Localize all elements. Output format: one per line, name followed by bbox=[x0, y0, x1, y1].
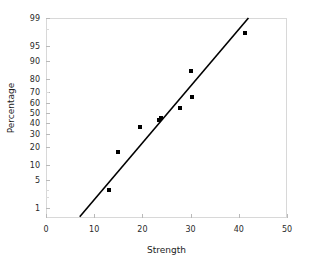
x-tick-label: 10 bbox=[89, 225, 99, 234]
y-tick-mark bbox=[46, 180, 50, 181]
y-tick-label: 5 bbox=[14, 176, 40, 185]
y-tick-mark bbox=[46, 147, 50, 148]
x-tick-label: 0 bbox=[43, 225, 48, 234]
y-tick-mark bbox=[46, 165, 50, 166]
data-point bbox=[243, 31, 247, 35]
x-tick-mark bbox=[191, 214, 192, 218]
y-axis-title: Percentage bbox=[6, 68, 16, 148]
x-tick-label: 50 bbox=[282, 225, 292, 234]
y-tick-label: 80 bbox=[14, 74, 40, 83]
y-tick-mark bbox=[46, 46, 50, 47]
x-tick-mark bbox=[239, 214, 240, 218]
y-tick-label: 99 bbox=[14, 14, 40, 23]
y-tick-label: 70 bbox=[14, 87, 40, 96]
y-tick-minor bbox=[46, 197, 49, 198]
y-tick-minor bbox=[46, 92, 49, 93]
data-point bbox=[189, 69, 193, 73]
y-tick-label: 95 bbox=[14, 41, 40, 50]
x-tick-mark bbox=[46, 214, 47, 218]
data-point bbox=[107, 188, 111, 192]
y-tick-label: 20 bbox=[14, 143, 40, 152]
x-tick-mark bbox=[142, 214, 143, 218]
y-tick-mark bbox=[46, 61, 50, 62]
y-tick-mark bbox=[46, 113, 50, 114]
data-point bbox=[138, 125, 142, 129]
y-tick-mark bbox=[46, 103, 50, 104]
y-tick-label: 40 bbox=[14, 119, 40, 128]
y-tick-label: 1 bbox=[14, 203, 40, 212]
x-tick-label: 40 bbox=[234, 225, 244, 234]
y-tick-label: 90 bbox=[14, 56, 40, 65]
y-tick-minor bbox=[46, 29, 49, 30]
data-point bbox=[178, 106, 182, 110]
data-point bbox=[159, 116, 163, 120]
data-point bbox=[190, 95, 194, 99]
x-axis-title: Strength bbox=[46, 245, 287, 255]
x-tick-mark bbox=[94, 214, 95, 218]
y-tick-label: 50 bbox=[14, 108, 40, 117]
plot-frame bbox=[46, 18, 287, 218]
y-tick-mark bbox=[46, 208, 50, 209]
y-tick-minor bbox=[46, 190, 49, 191]
x-tick-label: 30 bbox=[186, 225, 196, 234]
y-tick-mark bbox=[46, 134, 50, 135]
y-tick-label: 10 bbox=[14, 161, 40, 170]
data-point bbox=[116, 150, 120, 154]
x-tick-mark bbox=[287, 214, 288, 218]
y-tick-label: 60 bbox=[14, 98, 40, 107]
y-tick-mark bbox=[46, 79, 50, 80]
normal-probability-plot: 151020304050607080909599 01020304050 Str… bbox=[0, 0, 315, 270]
y-tick-mark bbox=[46, 123, 50, 124]
x-tick-label: 20 bbox=[137, 225, 147, 234]
y-tick-label: 30 bbox=[14, 130, 40, 139]
y-tick-mark bbox=[46, 18, 50, 19]
